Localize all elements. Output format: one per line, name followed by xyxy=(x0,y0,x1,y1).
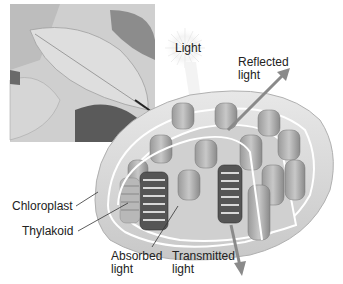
absorbed-light-label: Absorbed light xyxy=(111,250,162,276)
transmitted-light-label: Transmitted light xyxy=(172,250,235,276)
thylakoid-label: Thylakoid xyxy=(22,225,73,238)
chloroplast-light-diagram: Light Reflected light Chloroplast Thylak… xyxy=(0,0,343,284)
chloroplast-label: Chloroplast xyxy=(12,200,73,213)
diagram-graphics xyxy=(0,0,343,284)
reflected-light-label: Reflected light xyxy=(238,56,289,82)
light-label: Light xyxy=(175,42,201,55)
